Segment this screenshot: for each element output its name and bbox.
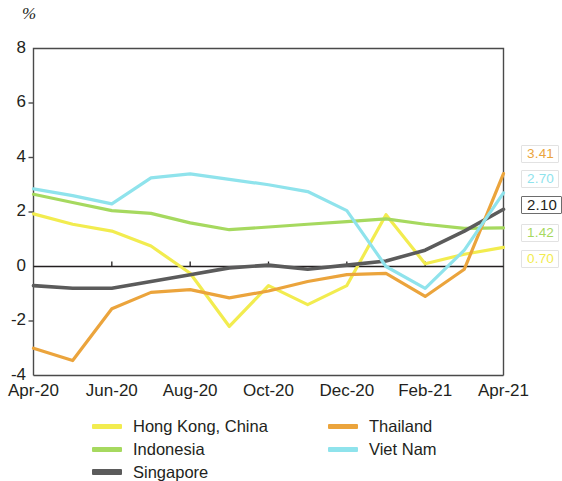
chart-legend: Hong Kong, ChinaIndonesiaSingaporeThaila… bbox=[92, 415, 552, 481]
legend-swatch-icon bbox=[92, 424, 122, 429]
legend-swatch-icon bbox=[328, 447, 358, 452]
x-axis-tick-label: Dec-20 bbox=[304, 381, 390, 401]
legend-label: Singapore bbox=[133, 463, 208, 481]
legend-item-hong-kong-china[interactable]: Hong Kong, China bbox=[92, 415, 268, 437]
end-value-label-thailand: 3.41 bbox=[521, 145, 559, 163]
series-line-indonesia bbox=[34, 194, 504, 229]
legend-label: Viet Nam bbox=[369, 440, 437, 459]
x-axis-tick-label: Apr-21 bbox=[461, 381, 547, 401]
legend-item-thailand[interactable]: Thailand bbox=[328, 415, 437, 437]
legend-column-1: Hong Kong, ChinaIndonesiaSingapore bbox=[92, 415, 268, 481]
end-value-label-singapore: 2.10 bbox=[521, 196, 562, 214]
y-axis-tick-label: -2 bbox=[0, 310, 26, 330]
series-line-singapore bbox=[34, 209, 504, 288]
legend-item-viet-nam[interactable]: Viet Nam bbox=[328, 438, 437, 460]
legend-label: Indonesia bbox=[133, 440, 205, 459]
legend-label: Thailand bbox=[369, 417, 432, 436]
y-axis-tick-label: 6 bbox=[0, 92, 26, 112]
y-axis-tick-label: 8 bbox=[0, 38, 26, 58]
x-axis-tick-label: Apr-20 bbox=[0, 381, 77, 401]
end-value-label-indonesia: 1.42 bbox=[521, 224, 559, 242]
plot-frame bbox=[34, 49, 504, 376]
y-axis-tick-label: 4 bbox=[0, 147, 26, 167]
legend-column-2: ThailandViet Nam bbox=[328, 415, 437, 461]
x-axis-tick-label: Oct-20 bbox=[226, 381, 312, 401]
legend-swatch-icon bbox=[92, 469, 122, 475]
legend-item-indonesia[interactable]: Indonesia bbox=[92, 438, 268, 460]
legend-swatch-icon bbox=[92, 447, 122, 452]
x-axis-tick-label: Aug-20 bbox=[147, 381, 233, 401]
end-value-label-hong-kong-china: 0.70 bbox=[521, 250, 559, 268]
end-value-label-viet-nam: 2.70 bbox=[521, 170, 559, 188]
y-axis-tick-label: 2 bbox=[0, 201, 26, 221]
x-axis-tick-label: Feb-21 bbox=[382, 381, 468, 401]
series-line-hong-kong-china bbox=[34, 214, 504, 327]
legend-item-singapore[interactable]: Singapore bbox=[92, 461, 268, 481]
y-axis-tick-label: 0 bbox=[0, 256, 26, 276]
legend-swatch-icon bbox=[328, 424, 358, 429]
x-axis-tick-label: Jun-20 bbox=[69, 381, 155, 401]
legend-label: Hong Kong, China bbox=[133, 417, 268, 436]
